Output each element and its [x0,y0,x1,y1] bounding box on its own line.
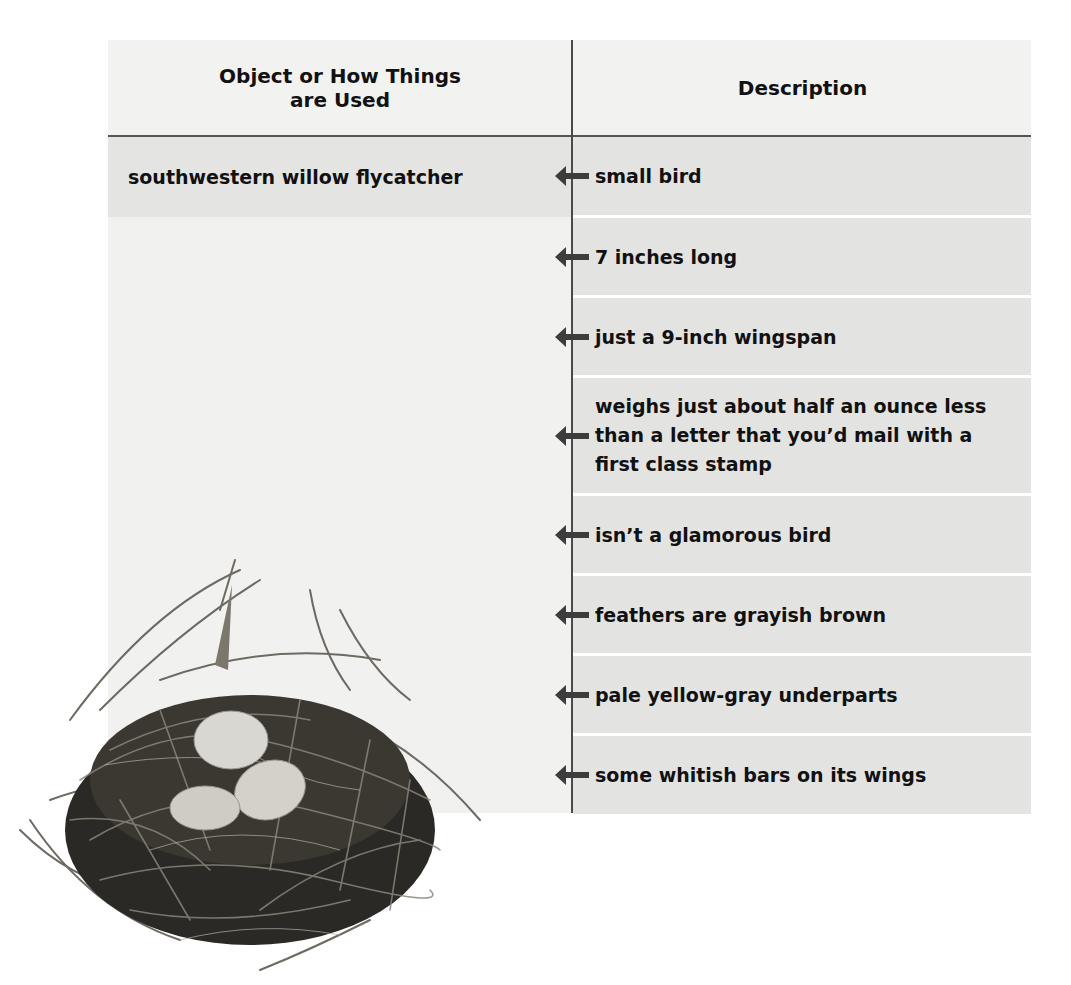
arrow-left-icon [555,684,589,706]
description-text: 7 inches long [595,245,737,269]
description-row: feathers are grayish brown [573,576,1031,656]
description-row: just a 9-inch wingspan [573,298,1031,378]
description-text: small bird [595,164,702,188]
description-row: isn’t a glamorous bird [573,496,1031,576]
description-row: small bird [573,137,1031,218]
description-list: small bird 7 inches long just a 9-inch w… [573,137,1031,814]
arrow-left-icon [555,165,589,187]
arrow-left-icon [555,764,589,786]
description-row: weighs just about half an ounce less tha… [573,378,1031,496]
arrow-left-icon [555,326,589,348]
description-text: weighs just about half an ounce less tha… [595,392,1015,479]
description-text: pale yellow-gray underparts [595,683,898,707]
subject-cell: southwestern willow flycatcher [108,137,572,217]
header-object-or-how-used: Object or How Things are Used [108,40,572,135]
bird-nest-with-eggs-image [10,550,490,980]
table-header: Object or How Things are Used Descriptio… [108,40,1031,137]
arrow-left-icon [555,524,589,546]
description-text: isn’t a glamorous bird [595,523,831,547]
description-row: pale yellow-gray underparts [573,656,1031,736]
subject-label: southwestern willow flycatcher [128,166,463,188]
arrow-left-icon [555,425,589,447]
description-text: feathers are grayish brown [595,603,886,627]
header-right-label: Description [738,76,867,100]
header-left-label: Object or How Things are Used [210,64,470,112]
header-description: Description [574,40,1031,135]
arrow-left-icon [555,246,589,268]
description-text: some whitish bars on its wings [595,763,926,787]
description-text: just a 9-inch wingspan [595,325,836,349]
description-row: 7 inches long [573,218,1031,298]
arrow-left-icon [555,604,589,626]
description-row: some whitish bars on its wings [573,736,1031,814]
